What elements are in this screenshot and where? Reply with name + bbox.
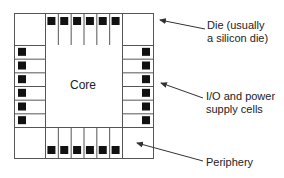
io-cells-label: I/O and power supply cells	[206, 90, 275, 116]
io-pad-top	[86, 17, 94, 25]
io-pad-right	[142, 103, 150, 111]
io-pad-left	[18, 48, 26, 56]
io-pad-bottom	[73, 146, 81, 154]
io-pad-left	[18, 75, 26, 83]
io-pad-right	[142, 116, 150, 124]
die-label-line2: a silicon die)	[207, 32, 268, 45]
io-pad-left	[18, 116, 26, 124]
io-pad-left	[18, 103, 26, 111]
io-pad-top	[73, 17, 81, 25]
io-pad-right	[142, 89, 150, 97]
io-pad-bottom	[60, 146, 68, 154]
periphery-label: Periphery	[206, 156, 253, 169]
die-arrow-icon	[160, 20, 205, 29]
io-label-line1: I/O and power	[206, 90, 275, 103]
io-pad-top	[60, 17, 68, 25]
io-pad-bottom	[112, 146, 120, 154]
core-label: Core	[70, 78, 96, 92]
io-pad-top	[47, 17, 55, 25]
io-label-line2: supply cells	[206, 103, 275, 116]
io-pad-right	[142, 75, 150, 83]
io-pad-bottom	[99, 146, 107, 154]
io-arrow-icon	[161, 83, 203, 98]
die-label-line1: Die (usually	[207, 19, 268, 32]
io-pad-bottom	[47, 146, 55, 154]
io-pad-top	[99, 17, 107, 25]
io-pad-left	[18, 62, 26, 70]
io-pad-right	[142, 62, 150, 70]
die-label: Die (usually a silicon die)	[207, 19, 268, 45]
io-pad-bottom	[86, 146, 94, 154]
io-pad-right	[142, 48, 150, 56]
io-pad-left	[18, 89, 26, 97]
io-pad-top	[112, 17, 120, 25]
